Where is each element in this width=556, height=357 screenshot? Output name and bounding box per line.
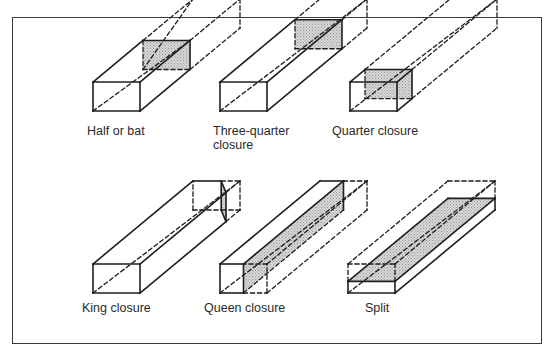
edge bbox=[220, 20, 295, 82]
label-quarter-closure: Quarter closure bbox=[332, 124, 418, 138]
label-line: Three-quarter bbox=[213, 124, 289, 138]
label-split: Split bbox=[365, 301, 389, 315]
brick-queen-closure bbox=[220, 181, 367, 293]
removed-part-edge bbox=[342, 28, 367, 49]
label-line: Quarter closure bbox=[332, 124, 418, 138]
label-line: King closure bbox=[82, 301, 151, 315]
diagonal-guide bbox=[348, 181, 495, 293]
removed-part-edge bbox=[190, 0, 240, 41]
diagonal-guide bbox=[93, 41, 190, 112]
edge bbox=[397, 99, 412, 111]
label-line: Split bbox=[365, 301, 389, 315]
label-three-quarter-closure: Three-quarter closure bbox=[213, 124, 289, 152]
brick-quarter-closure bbox=[350, 0, 497, 111]
diagonal-guide bbox=[93, 181, 240, 293]
removed-part-edge bbox=[295, 0, 320, 20]
edge bbox=[140, 193, 226, 264]
removed-part-edge bbox=[342, 0, 367, 20]
label-king-closure: King closure bbox=[82, 301, 151, 315]
label-queen-closure: Queen closure bbox=[204, 301, 285, 315]
brick-king-closure bbox=[93, 181, 240, 293]
label-half-or-bat: Half or bat bbox=[87, 124, 145, 138]
edge bbox=[93, 41, 143, 83]
diagonal-guide bbox=[350, 0, 497, 111]
brick-three-quarter-closure bbox=[220, 0, 367, 111]
removed-part-edge bbox=[412, 28, 497, 99]
edge bbox=[350, 70, 365, 82]
brick-split bbox=[348, 181, 495, 293]
edge bbox=[93, 181, 193, 264]
edge bbox=[140, 222, 226, 293]
removed-part-edge bbox=[226, 210, 240, 222]
brick-half-or-bat bbox=[93, 0, 240, 111]
label-line: closure bbox=[213, 138, 289, 152]
edge bbox=[267, 49, 342, 111]
removed-part-edge bbox=[412, 0, 497, 70]
removed-part-edge bbox=[365, 0, 450, 70]
diagonal-guide bbox=[220, 181, 367, 293]
shaded-cut-face bbox=[348, 198, 495, 281]
label-line: Queen closure bbox=[204, 301, 285, 315]
label-line: Half or bat bbox=[87, 124, 145, 138]
